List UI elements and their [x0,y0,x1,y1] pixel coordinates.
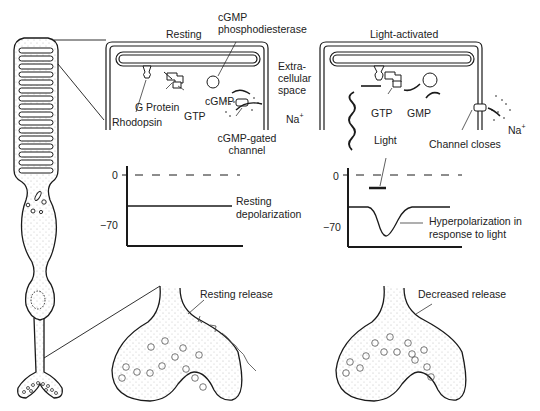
decreased-synaptic-terminal [336,286,466,401]
gtp-label: GTP [184,110,206,122]
extracellular-label-line1: Extra- [278,60,306,72]
rod-axon [18,318,63,398]
resting-release-label: Resting release [200,288,273,300]
activated-gtp-shape [393,81,401,87]
resting-trace-label-line2: depolarization [236,208,301,220]
resting-potential-graph [122,166,243,246]
gmp-label: GMP [407,107,431,119]
pde-label-line2: phosphodiesterase [218,23,307,35]
resting-tick-zero: 0 [112,169,118,181]
closed-channel-shape [474,104,486,111]
g-protein-label: G Protein [135,101,179,113]
light-na-dots [491,95,511,121]
zoom-lines [44,40,160,358]
channel-closes-label: Channel closes [429,138,501,150]
light-na-label: Na+ [508,121,526,136]
activated-pde-shape [423,73,437,87]
rhodopsin-shape [143,66,151,78]
pde-label-line1: cGMP [218,11,247,23]
resting-na-label: Na+ [286,110,304,125]
resting-tick-minus70: −70 [100,219,118,231]
resting-trace-label-line1: Resting [236,195,272,207]
activated-rhodopsin-shape [374,66,384,80]
rhodopsin-label: Rhodopsin [112,116,162,128]
light-wave [349,92,355,150]
extracellular-label-line3: space [278,84,306,96]
decreased-release-leader [416,304,432,314]
extracellular-label-line2: cellular [278,72,311,84]
decreased-release-label: Decreased release [418,288,506,300]
light-activated-title: Light-activated [370,28,438,40]
light-label: Light [374,134,397,146]
cgmp-gated-channel-label-line2: channel [212,144,282,156]
light-proteins [374,66,486,111]
light-leader [380,158,386,186]
cgmp-label: cGMP [205,95,234,107]
cgmp-gated-channel-label-line1: cGMP-gated [212,132,282,144]
pde-shape [207,76,219,88]
resting-title: Resting [166,28,202,40]
light-gtp-label: GTP [371,107,393,119]
hyperpolarization-label-line2: response to light [429,228,506,240]
light-tick-minus70: −70 [323,221,341,233]
light-tick-zero: 0 [333,170,339,182]
resting-release-leader [188,300,204,314]
hyperpolarization-label-line1: Hyperpolarization in [429,215,522,227]
